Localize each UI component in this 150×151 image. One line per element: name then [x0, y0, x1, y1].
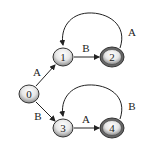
state-label-3: 3: [60, 122, 66, 134]
edge-label-0-1: A: [33, 66, 41, 78]
edge-2-1-loop: [62, 13, 121, 48]
state-3: 3: [53, 119, 73, 137]
edge-label-2-1: A: [128, 26, 136, 38]
edge-label-0-3: B: [34, 110, 41, 122]
state-2-accepting: 2: [100, 47, 124, 67]
edge-label-3-4: A: [82, 113, 90, 125]
state-4-accepting: 4: [100, 118, 124, 138]
state-label-4: 4: [109, 122, 115, 134]
state-0: 0: [19, 85, 39, 103]
edge-label-1-2: B: [82, 42, 89, 54]
state-label-2: 2: [109, 51, 115, 63]
state-1: 1: [53, 48, 73, 66]
state-label-0: 0: [26, 88, 32, 100]
edge-4-3-loop: [62, 85, 121, 119]
edge-label-4-3: B: [128, 100, 135, 112]
automaton-diagram: A B B A A B 0 1 2 3 4: [0, 0, 150, 151]
state-label-1: 1: [60, 51, 66, 63]
